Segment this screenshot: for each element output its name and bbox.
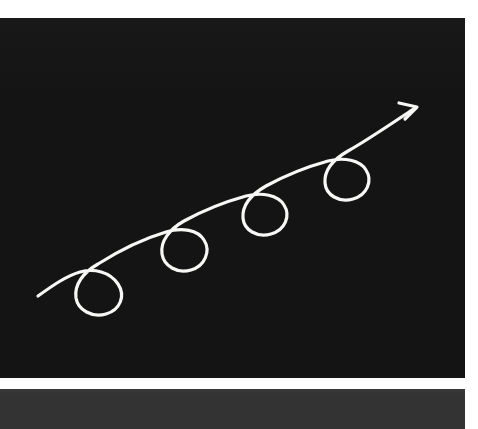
looping-arrow-path [38,108,415,315]
panel-separator [0,378,478,389]
drawing-canvas[interactable] [0,18,465,378]
right-margin [465,0,478,429]
screenshot-root [0,0,478,429]
top-margin [0,0,478,18]
looping-arrow-illustration [0,18,465,378]
arrow-stroke-group [38,103,417,315]
bottom-toolbar[interactable] [0,389,465,429]
